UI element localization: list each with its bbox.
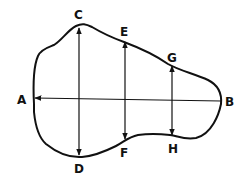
label-b: B [225, 95, 234, 109]
label-g: G [167, 51, 177, 65]
line-a-b [35, 98, 221, 101]
diagram-canvas: A B C D E F G H [0, 0, 249, 183]
label-e: E [120, 25, 128, 39]
label-c: C [74, 8, 83, 22]
label-h: H [168, 142, 178, 156]
shape-outline [34, 24, 222, 157]
label-f: F [120, 146, 128, 160]
label-d: D [74, 162, 84, 176]
label-a: A [17, 93, 27, 107]
